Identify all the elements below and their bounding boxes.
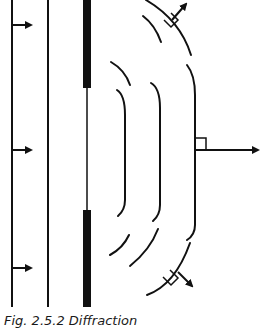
barrier [83,0,91,307]
barrier-upper [83,0,91,88]
diffracted-wavefronts [110,0,195,295]
incident-arrows [12,25,31,268]
barrier-lower [83,210,91,307]
propagation-arrows [163,4,258,286]
figure-caption: Fig. 2.5.2 Diffraction [4,313,137,328]
